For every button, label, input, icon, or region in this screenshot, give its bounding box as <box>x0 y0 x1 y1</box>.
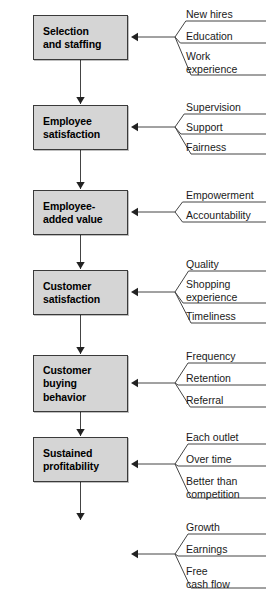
node-label: Employee satisfaction <box>43 114 100 141</box>
driver-label: Growth <box>186 521 220 534</box>
node-sustained-profitability: Sustained profitability <box>33 437 128 482</box>
driver-label: Accountability <box>186 209 251 222</box>
node-customer-buying-behavior: Customer buying behavior <box>33 355 128 412</box>
node-customer-satisfaction: Customer satisfaction <box>33 270 128 315</box>
node-label: Selection and staffing <box>43 24 101 51</box>
driver-label: Over time <box>186 453 232 466</box>
driver-label: Support <box>186 121 223 134</box>
driver-label: Retention <box>186 372 231 385</box>
driver-label: Earnings <box>186 543 227 556</box>
node-label: Sustained profitability <box>43 446 99 473</box>
node-label: Employee- added value <box>43 199 103 226</box>
driver-label: Supervision <box>186 101 241 114</box>
driver-label: Fairness <box>186 141 226 154</box>
driver-label: Work experience <box>186 50 237 75</box>
driver-label: Shopping experience <box>186 278 237 303</box>
driver-label: Each outlet <box>186 431 239 444</box>
driver-label: Education <box>186 30 233 43</box>
node-selection-and-staffing: Selection and staffing <box>33 15 128 60</box>
driver-label: Quality <box>186 258 219 271</box>
node-employee-satisfaction: Employee satisfaction <box>33 105 128 150</box>
driver-label: Empowerment <box>186 189 254 202</box>
driver-label: Referral <box>186 394 223 407</box>
driver-label: Frequency <box>186 350 236 363</box>
node-label: Customer buying behavior <box>43 363 91 404</box>
driver-label: New hires <box>186 8 233 21</box>
node-employee-added-value: Employee- added value <box>33 190 128 235</box>
service-profit-chain-diagram: Selection and staffing Employee satisfac… <box>0 0 271 602</box>
driver-label: Timeliness <box>186 310 236 323</box>
driver-label: Better than competition <box>186 475 240 500</box>
driver-label: Free cash flow <box>186 565 230 590</box>
node-label: Customer satisfaction <box>43 279 100 306</box>
